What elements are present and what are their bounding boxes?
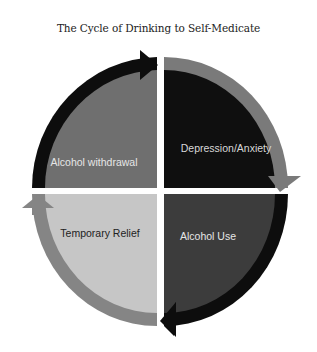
label-temporary-relief: Temporary Relief bbox=[60, 227, 139, 239]
cycle-diagram: Alcohol withdrawal Depression/Anxiety Al… bbox=[0, 0, 317, 352]
quadrant-top-left: Alcohol withdrawal bbox=[32, 50, 158, 188]
label-depression-anxiety: Depression/Anxiety bbox=[181, 142, 272, 154]
quadrant-fill-alcohol-use bbox=[164, 194, 275, 313]
quadrant-fill-temporary-relief bbox=[45, 194, 157, 313]
label-alcohol-withdrawal: Alcohol withdrawal bbox=[51, 156, 138, 168]
label-alcohol-use: Alcohol Use bbox=[180, 230, 236, 242]
quadrant-fill-depression bbox=[164, 70, 275, 188]
quadrant-bottom-left: Temporary Relief bbox=[22, 194, 157, 326]
quadrant-top-right: Depression/Anxiety bbox=[164, 57, 301, 192]
quadrant-bottom-right: Alcohol Use bbox=[160, 194, 288, 337]
